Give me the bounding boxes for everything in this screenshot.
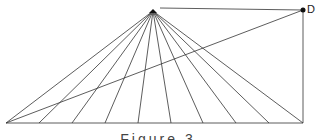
fan-line xyxy=(153,11,236,123)
top-line xyxy=(160,8,303,10)
point-d xyxy=(301,8,306,13)
fan-diagram xyxy=(0,0,316,140)
fan-line xyxy=(153,11,303,123)
point-d-label: D xyxy=(307,3,315,15)
fan-line xyxy=(153,11,203,123)
diagonal-line xyxy=(6,10,303,123)
figure-caption: Figure 3 xyxy=(0,131,316,140)
fan-line xyxy=(153,11,269,123)
fan-line xyxy=(153,11,171,123)
fan-line xyxy=(6,11,153,123)
fan-line xyxy=(39,11,153,123)
apex-point xyxy=(149,9,157,13)
